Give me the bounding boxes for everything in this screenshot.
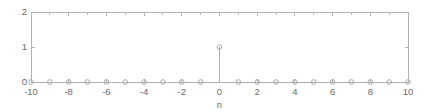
x-tick-label: 4 xyxy=(292,87,297,97)
x-tick-label: 10 xyxy=(403,87,414,97)
x-tick-label: 2 xyxy=(255,87,260,97)
x-tick-label: 8 xyxy=(368,87,373,97)
x-tick-label: 0 xyxy=(217,87,222,97)
x-axis-label: n xyxy=(217,100,222,110)
x-tick-label: -8 xyxy=(64,87,72,97)
y-tick-label: 2 xyxy=(10,7,27,17)
x-tick-label: -6 xyxy=(102,87,110,97)
x-tick-label: 6 xyxy=(330,87,335,97)
stem-plot-figure: -10-8-6-4-20246810 012 n xyxy=(0,0,436,112)
x-tick-label: -2 xyxy=(178,87,186,97)
y-tick-label: 0 xyxy=(10,77,27,87)
y-tick-label: 1 xyxy=(10,42,27,52)
x-tick-label: -4 xyxy=(140,87,148,97)
x-tick-label: -10 xyxy=(24,87,38,97)
